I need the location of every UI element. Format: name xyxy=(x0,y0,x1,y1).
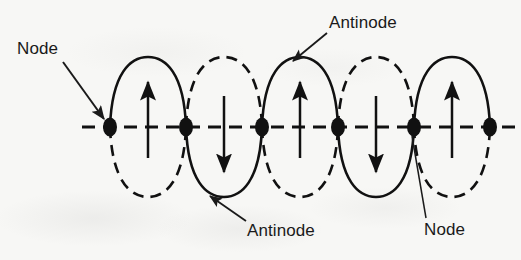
label-node-bottom: Node xyxy=(424,221,465,238)
node-marker-4 xyxy=(331,118,345,137)
node-marker-5 xyxy=(407,118,421,137)
node-marker-2 xyxy=(179,118,193,137)
leader-node-bottom xyxy=(412,136,426,218)
label-leader-lines xyxy=(63,33,426,221)
leader-antinode-bottom xyxy=(210,196,246,221)
leader-node-top xyxy=(63,62,104,119)
standing-wave-figure: Node Antinode Antinode Node xyxy=(0,0,521,260)
label-antinode-top: Antinode xyxy=(329,14,397,31)
node-marker-3 xyxy=(255,118,269,137)
label-antinode-bottom: Antinode xyxy=(247,222,315,239)
leader-antinode-top xyxy=(293,33,327,61)
node-marker-6 xyxy=(483,118,497,137)
label-node-top: Node xyxy=(17,40,58,57)
node-marker-1 xyxy=(103,118,117,137)
